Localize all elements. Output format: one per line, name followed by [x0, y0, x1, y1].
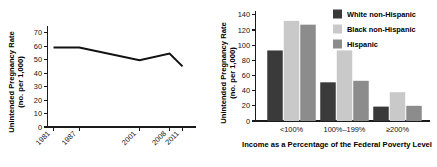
line-chart-x-tick-labels: 1981 1987 2001 2008 2011 [34, 129, 181, 147]
bar-chart-y-tick-label: 100 [238, 41, 250, 50]
line-chart-y-tick-label: 10 [34, 109, 42, 118]
figure-container: Unintended Pregnancy Rate (no. per 1,000… [0, 0, 437, 167]
line-chart-y-tick-label: 20 [34, 96, 42, 105]
bar-chart-x-axis-title: Income as a Percentage of the Federal Po… [242, 140, 432, 149]
bar [284, 21, 300, 121]
bar-chart-y-tick-label: 20 [242, 101, 250, 110]
line-chart-y-ticks: 0 10 20 30 40 50 60 70 [34, 28, 48, 131]
bar-chart-y-axis-title-line1: Unintended Pregnancy Rate [219, 22, 228, 123]
bar [373, 107, 389, 121]
bar-chart-y-tick-label: 40 [242, 86, 250, 95]
bar [353, 81, 369, 121]
line-chart-x-tick-label: 2011 [163, 129, 181, 147]
bar [390, 92, 406, 121]
bar-chart-y-tick-label: 0 [246, 117, 250, 126]
line-chart-y-axis-title-line1: Unintended Pregnancy Rate [7, 31, 16, 132]
bar-chart-y-tick-label: 120 [238, 26, 250, 35]
line-chart-y-axis-title: Unintended Pregnancy Rate (no. per 1,000… [7, 31, 25, 132]
bar-chart-svg: Unintended Pregnancy Rate (no. per 1,000… [215, 0, 437, 167]
bar [337, 50, 353, 121]
line-chart-y-axis-title-line2: (no. per 1,000) [16, 56, 25, 108]
bar [300, 25, 316, 121]
line-chart-y-tick-label: 0 [38, 123, 42, 132]
legend-swatch-hispanic [333, 40, 342, 49]
bar-chart-category-label: 100%–199% [324, 125, 366, 134]
line-chart-series-path [54, 48, 183, 67]
bar-chart-y-axis-title-line2: (no. per 1,000) [228, 47, 237, 99]
line-chart-panel: Unintended Pregnancy Rate (no. per 1,000… [0, 0, 215, 167]
line-chart-x-tick-label: 2001 [120, 129, 138, 147]
bar-chart-x-tick-labels: <100% 100%–199% ≥200% [280, 125, 410, 134]
line-chart-svg: Unintended Pregnancy Rate (no. per 1,000… [0, 0, 215, 167]
bar-chart-panel: Unintended Pregnancy Rate (no. per 1,000… [215, 0, 437, 167]
line-chart-y-tick-label: 60 [34, 42, 42, 51]
line-chart-x-tick-label: 1987 [60, 129, 78, 147]
bar-chart-category-label: <100% [280, 125, 304, 134]
bar [320, 82, 336, 121]
bar-chart-y-tick-label: 60 [242, 71, 250, 80]
bar-chart-y-axis-title: Unintended Pregnancy Rate (no. per 1,000… [219, 22, 237, 123]
bar-chart-y-ticks: 0 20 40 60 80 100 120 140 [238, 10, 256, 125]
line-chart-y-tick-label: 70 [34, 28, 42, 37]
line-chart-y-tick-label: 30 [34, 82, 42, 91]
bar-chart-y-tick-label: 80 [242, 56, 250, 65]
legend-label-black-non-hispanic: Black non-Hispanic [347, 25, 416, 34]
bar [267, 50, 283, 121]
legend-swatch-white-non-hispanic [333, 10, 342, 19]
bar-chart-bars [267, 21, 422, 121]
line-chart-y-tick-label: 50 [34, 55, 42, 64]
bar-chart-legend: White non-Hispanic Black non-Hispanic Hi… [333, 10, 416, 50]
legend-label-white-non-hispanic: White non-Hispanic [347, 10, 416, 19]
legend-label-hispanic: Hispanic [347, 40, 378, 49]
line-chart-x-tick-label: 1981 [34, 129, 52, 147]
bar-chart-y-tick-label: 140 [238, 10, 250, 19]
bar [406, 106, 422, 121]
legend-swatch-black-non-hispanic [333, 25, 342, 34]
bar-chart-category-label: ≥200% [386, 125, 409, 134]
line-chart-y-tick-label: 40 [34, 69, 42, 78]
